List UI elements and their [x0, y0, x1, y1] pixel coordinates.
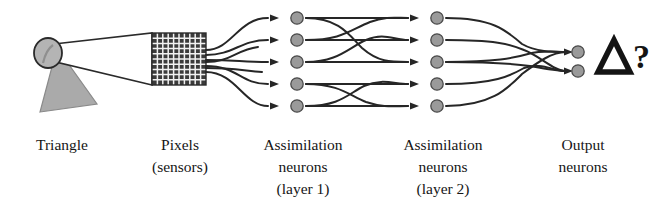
neuron[interactable]	[431, 34, 443, 46]
neuron[interactable]	[431, 12, 443, 24]
label-output-line1: Output	[561, 136, 605, 153]
label-pixels-line1: Pixels	[161, 136, 199, 153]
neuron[interactable]	[291, 100, 303, 112]
label-triangle: Triangle	[36, 136, 88, 153]
label-pixels-line2: (sensors)	[152, 158, 208, 176]
neuron[interactable]	[291, 56, 303, 68]
neural-network-diagram: ? Triangle Pixels (sensors) Assimilation…	[0, 0, 659, 220]
question-mark-glyph: ?	[633, 38, 650, 75]
label-layer1-line3: (layer 1)	[277, 180, 330, 198]
lens-icon	[34, 38, 62, 68]
figure-background	[0, 0, 659, 220]
label-layer2-line3: (layer 2)	[417, 180, 470, 198]
neuron[interactable]	[291, 34, 303, 46]
pixel-grid	[152, 33, 206, 85]
neuron[interactable]	[291, 78, 303, 90]
neuron[interactable]	[572, 65, 584, 77]
neuron[interactable]	[431, 78, 443, 90]
neuron[interactable]	[431, 100, 443, 112]
label-layer1-line1: Assimilation	[263, 136, 342, 153]
neuron[interactable]	[431, 56, 443, 68]
neuron[interactable]	[291, 12, 303, 24]
label-layer1-line2: neurons	[278, 158, 327, 175]
label-layer2-line2: neurons	[418, 158, 467, 175]
neuron[interactable]	[572, 46, 584, 58]
label-layer2-line1: Assimilation	[403, 136, 482, 153]
label-output-line2: neurons	[558, 158, 607, 175]
